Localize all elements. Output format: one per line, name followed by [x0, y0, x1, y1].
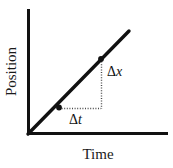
- delta-x-label: Δx: [107, 65, 122, 79]
- delta-t-variable: t: [78, 112, 82, 127]
- x-axis-label: Time: [28, 147, 168, 162]
- delta-x-variable: x: [116, 64, 122, 79]
- delta-x-symbol: Δ: [107, 64, 116, 79]
- y-axis-label: Position: [4, 9, 22, 134]
- delta-t-label: Δt: [69, 113, 82, 127]
- position-time-graph-figure: Position Time Δx Δt: [0, 0, 173, 168]
- delta-t-symbol: Δ: [69, 112, 78, 127]
- upper-point-marker: [98, 56, 104, 62]
- lower-point-marker: [56, 105, 62, 111]
- graph-canvas: [0, 0, 173, 168]
